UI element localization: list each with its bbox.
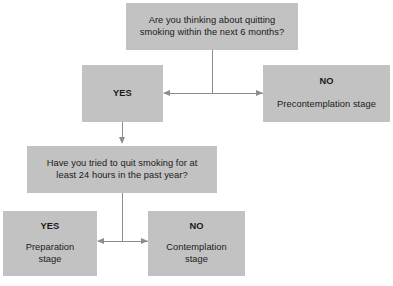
q2-yes-label: YES	[41, 221, 60, 233]
question-2-text: Have you tried to quit smoking for at le…	[41, 158, 204, 182]
question-1-box: Are you thinking about quitting smoking …	[126, 3, 298, 50]
question-1-text: Are you thinking about quitting smoking …	[134, 15, 290, 39]
q1-no-stage: Precontemplation stage	[277, 99, 376, 111]
arrow-right-icon-upper	[256, 90, 263, 96]
arrow-left-icon-lower	[97, 238, 104, 244]
q1-no-box: NO Precontemplation stage	[263, 65, 390, 122]
q2-yes-box: YES Preparation stage	[3, 211, 97, 276]
connector-q1-split-horizontal	[164, 93, 263, 94]
arrow-down-icon	[119, 137, 125, 144]
q2-no-box: NO Contemplation stage	[148, 211, 245, 276]
q2-yes-stage: Preparation stage	[26, 242, 75, 266]
connector-yes-to-q2	[122, 122, 123, 138]
connector-q1-to-split	[212, 50, 213, 93]
question-2-box: Have you tried to quit smoking for at le…	[27, 146, 217, 193]
connector-q2-to-split	[122, 193, 123, 241]
arrow-right-icon-lower	[141, 238, 148, 244]
q1-no-label: NO	[319, 76, 333, 88]
arrow-left-icon-upper	[163, 90, 170, 96]
q1-yes-label: YES	[113, 88, 132, 100]
q1-yes-box: YES	[82, 65, 163, 122]
flowchart-canvas: Are you thinking about quitting smoking …	[0, 0, 393, 286]
q2-no-stage: Contemplation stage	[166, 242, 227, 266]
q2-no-label: NO	[189, 221, 203, 233]
